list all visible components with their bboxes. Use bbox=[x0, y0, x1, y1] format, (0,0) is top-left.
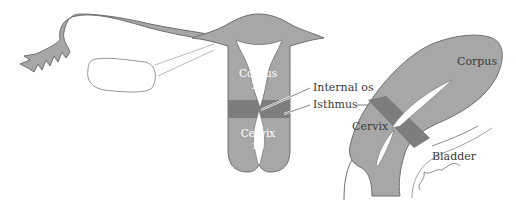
isthmus-label: Isthmus bbox=[313, 98, 358, 111]
internal-os-label: Internal os bbox=[313, 81, 374, 94]
uterus-diagram: Corpus 2⁄3 Cervix 1⁄3 Internal os Isthmu… bbox=[0, 0, 516, 210]
front-cervix-fraction: 1⁄3 bbox=[252, 141, 265, 151]
ovary bbox=[88, 44, 214, 92]
side-corpus-label: Corpus bbox=[457, 55, 497, 68]
side-cervix-label: Cervix bbox=[352, 120, 389, 133]
front-corpus-label: Corpus bbox=[239, 67, 277, 79]
front-cervix-label: Cervix bbox=[241, 127, 276, 139]
uterus-front-view: Corpus 2⁄3 Cervix 1⁄3 bbox=[192, 14, 324, 172]
bladder-label: Bladder bbox=[432, 150, 477, 163]
uterus-side-view: Corpus Cervix bbox=[344, 35, 502, 200]
front-corpus-fraction: 2⁄3 bbox=[252, 81, 265, 91]
